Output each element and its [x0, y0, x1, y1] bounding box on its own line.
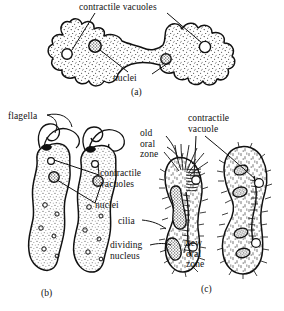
- label-dividing-nucleus-c: dividing nucleus: [110, 240, 162, 261]
- contractile-vacuole-b-right: [92, 161, 99, 168]
- nucleus-right: [161, 54, 171, 64]
- label-nuclei-a: nuclei: [113, 73, 137, 84]
- panel-tag-c: (c): [201, 284, 212, 294]
- label-contractile-vacuoles-a: contractile vacuoles: [79, 2, 157, 13]
- contractile-vacuole-c-right-lower: [252, 239, 261, 248]
- protozoa-division-figure: contractile vacuoles nuclei (a) flagella…: [0, 0, 284, 311]
- contractile-vacuole-c-left-upper: [192, 176, 200, 184]
- contractile-vacuole-b-left: [48, 158, 55, 165]
- label-new-oral-zone-c: new oral zone: [186, 238, 214, 270]
- panel-a-amoeba: [48, 13, 235, 86]
- label-cilia-c: cilia: [118, 216, 135, 227]
- panel-tag-b: (b): [41, 288, 52, 298]
- label-contractile-vacuoles-b: contractile vacuoles: [100, 168, 158, 189]
- label-flagella-b: flagella: [8, 111, 37, 122]
- contractile-vacuole-left: [62, 49, 72, 59]
- contractile-vacuole-c-right-upper: [255, 179, 264, 188]
- nucleus-left: [89, 40, 101, 52]
- leader-c-cilia: [142, 220, 166, 229]
- leader-c-old-oral-zone-2: [167, 147, 179, 158]
- contractile-vacuole-right: [199, 41, 210, 52]
- label-nuclei-b: nuclei: [95, 200, 119, 211]
- panel-tag-a: (a): [131, 87, 142, 97]
- label-old-oral-zone-c: old oral zone: [140, 128, 166, 160]
- label-contractile-vacuole-c: contractile vacuole: [188, 113, 244, 134]
